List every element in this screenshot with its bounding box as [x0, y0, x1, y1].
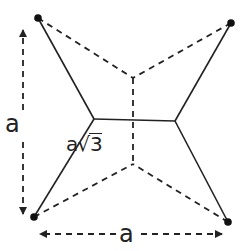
- label-segment-length: a√3: [66, 133, 102, 154]
- label-side-horizontal: a: [119, 222, 134, 246]
- dashed-edge-bottomright: [133, 164, 228, 222]
- dashed-edge-bottomleft: [34, 164, 133, 217]
- diagram-canvas: [0, 0, 250, 251]
- point-bottom-left: [30, 213, 38, 221]
- label-segment-radicand: 3: [89, 133, 102, 154]
- solid-network: [34, 18, 231, 222]
- label-side-vertical: a: [5, 112, 20, 136]
- point-top-left: [34, 14, 42, 22]
- sqrt-symbol: √: [77, 132, 89, 156]
- solid-edge-bottomright: [175, 121, 228, 222]
- solid-edge-center: [94, 119, 175, 121]
- point-top-right: [227, 19, 235, 27]
- label-segment-prefix: a: [66, 132, 77, 156]
- point-bottom-right: [224, 218, 232, 226]
- dashed-edge-topright: [133, 23, 231, 78]
- solid-edge-topright: [175, 23, 231, 121]
- dashed-edge-topleft: [38, 18, 133, 78]
- solid-edge-topleft: [38, 18, 94, 119]
